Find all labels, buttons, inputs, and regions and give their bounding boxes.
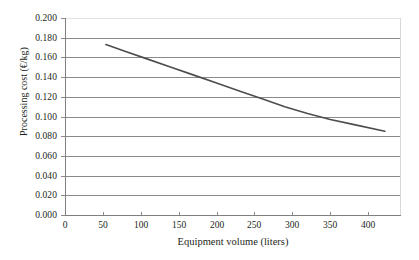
y-tick-label: 0.140 [0, 72, 57, 82]
x-tick-label: 50 [83, 220, 123, 230]
y-tick-label: 0.060 [0, 151, 57, 161]
x-tick-label: 350 [310, 220, 350, 230]
y-axis-line [65, 18, 66, 216]
y-tick-label: 0.040 [0, 171, 57, 181]
x-tick-label: 100 [121, 220, 161, 230]
y-axis-title: Processing cost (€/kg) [18, 12, 29, 172]
x-tick-label: 250 [234, 220, 274, 230]
y-tick-label: 0.200 [0, 13, 57, 23]
line-chart: 0.0000.0200.0400.0600.0800.1000.1200.140… [0, 0, 419, 260]
plot-border-top [65, 18, 401, 19]
gridline-horizontal [65, 38, 401, 39]
x-tick-label: 200 [197, 220, 237, 230]
gridline-horizontal [65, 97, 401, 98]
gridline-horizontal [65, 57, 401, 58]
gridline-horizontal [65, 195, 401, 196]
y-tick-label: 0.080 [0, 131, 57, 141]
x-tick-label: 300 [272, 220, 312, 230]
x-axis-line [65, 215, 401, 216]
y-tick-label: 0.100 [0, 112, 57, 122]
y-tick-label: 0.160 [0, 52, 57, 62]
plot-border-right [400, 18, 401, 216]
gridline-horizontal [65, 156, 401, 157]
gridline-horizontal [65, 136, 401, 137]
x-tick-label: 400 [348, 220, 388, 230]
y-tick-label: 0.020 [0, 190, 57, 200]
y-tick-label: 0.120 [0, 92, 57, 102]
x-tick-label: 150 [159, 220, 199, 230]
gridline-horizontal [65, 77, 401, 78]
gridline-horizontal [65, 117, 401, 118]
x-axis-title: Equipment volume (liters) [65, 236, 401, 247]
y-tick-label: 0.000 [0, 210, 57, 220]
x-tick-label: 0 [45, 220, 85, 230]
gridline-horizontal [65, 176, 401, 177]
y-tick-label: 0.180 [0, 33, 57, 43]
